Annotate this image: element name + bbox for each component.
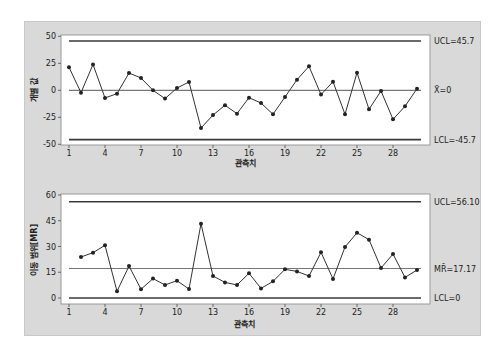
data-point (151, 277, 155, 281)
data-point (163, 97, 167, 101)
data-point (307, 274, 311, 278)
data-point (211, 113, 215, 117)
data-point (187, 287, 191, 291)
x-tick-label: 13 (208, 149, 218, 158)
x-tick-label: 16 (244, 149, 254, 158)
data-point (175, 86, 179, 90)
x-tick-label: 28 (388, 149, 398, 158)
data-point (367, 238, 371, 242)
data-point (211, 274, 215, 278)
y-axis-title: 개별 값 (29, 77, 39, 102)
data-point (295, 269, 299, 273)
data-point (379, 89, 383, 93)
y-tick-label: 50 (46, 32, 56, 41)
individuals-chart: 50250-25-50 14710131619222528 UCL=45.7X̄… (29, 32, 476, 168)
y-tick-label: 0 (51, 86, 56, 95)
data-point (67, 65, 71, 69)
data-point (247, 96, 251, 100)
ucl-label: UCL=45.7 (434, 37, 474, 46)
data-point (271, 112, 275, 116)
x-axis-title: 관측치 (235, 158, 256, 168)
data-point (139, 287, 143, 291)
x-tick-label: 10 (172, 149, 182, 158)
y-tick-label: 30 (46, 243, 56, 252)
data-point (199, 126, 203, 130)
lcl-label: LCL=-45.7 (434, 136, 476, 145)
y-tick-label: 0 (51, 294, 56, 303)
y-axis: 604530150 (46, 191, 61, 303)
data-point (319, 93, 323, 97)
data-point (391, 252, 395, 256)
x-axis: 14710131619222528 (66, 145, 398, 158)
data-point (331, 80, 335, 84)
y-tick-label: 45 (46, 217, 56, 226)
y-axis: 50250-25-50 (43, 32, 61, 149)
data-point (415, 268, 419, 272)
data-point (403, 275, 407, 279)
center-label: X̄=0 (434, 85, 451, 95)
y-tick-label: 60 (46, 191, 56, 200)
x-tick-label: 4 (102, 149, 107, 158)
y-tick-label: -25 (43, 113, 56, 122)
x-tick-label: 7 (138, 149, 143, 158)
data-point (127, 264, 131, 268)
data-point (151, 88, 155, 92)
data-point (175, 279, 179, 283)
data-point (235, 112, 239, 116)
data-point (127, 71, 131, 75)
data-point (247, 271, 251, 275)
data-point (259, 101, 263, 105)
data-point (187, 80, 191, 84)
x-tick-label: 4 (102, 308, 107, 317)
data-point (115, 289, 119, 293)
x-tick-label: 19 (280, 308, 290, 317)
control-chart: 50250-25-50 14710131619222528 UCL=45.7X̄… (0, 0, 502, 357)
data-point (307, 64, 311, 68)
data-point (367, 107, 371, 111)
data-point (379, 266, 383, 270)
data-point (91, 251, 95, 255)
data-point (331, 277, 335, 281)
y-tick-label: -50 (43, 140, 56, 149)
data-point (199, 222, 203, 226)
data-point (415, 87, 419, 91)
x-tick-label: 13 (208, 308, 218, 317)
x-tick-label: 1 (66, 149, 71, 158)
data-point (271, 279, 275, 283)
x-tick-label: 19 (280, 149, 290, 158)
data-point (79, 91, 83, 95)
x-tick-label: 28 (388, 308, 398, 317)
x-tick-label: 10 (172, 308, 182, 317)
data-point (391, 117, 395, 121)
data-point (343, 112, 347, 116)
center-label: MR̄=17.17 (434, 263, 476, 273)
data-point (223, 280, 227, 284)
data-point (79, 255, 83, 259)
data-point (403, 104, 407, 108)
ucl-label: UCL=56.10 (434, 198, 480, 207)
x-axis-title: 관측치 (234, 319, 255, 329)
y-axis-title: 이동 범위[MR] (29, 224, 39, 276)
x-tick-label: 22 (316, 308, 326, 317)
data-point (103, 96, 107, 100)
y-tick-label: 15 (46, 268, 56, 277)
data-point (319, 250, 323, 254)
data-point (235, 283, 239, 287)
x-tick-label: 16 (244, 308, 254, 317)
data-point (223, 103, 227, 107)
data-point (103, 243, 107, 247)
lcl-label: LCL=0 (434, 294, 460, 303)
data-point (259, 286, 263, 290)
data-point (283, 95, 287, 99)
data-point (283, 267, 287, 271)
x-tick-label: 1 (66, 308, 71, 317)
data-point (163, 283, 167, 287)
x-tick-label: 7 (138, 308, 143, 317)
data-point (343, 245, 347, 249)
x-axis: 14710131619222528 (66, 304, 398, 317)
data-point (139, 76, 143, 80)
data-point (91, 62, 95, 66)
x-tick-label: 22 (316, 149, 326, 158)
y-tick-label: 25 (46, 59, 56, 68)
data-point (115, 92, 119, 96)
